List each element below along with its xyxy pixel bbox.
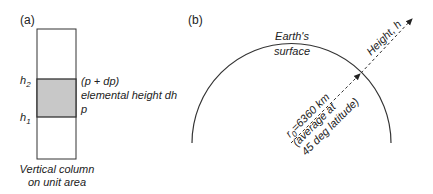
panel-b: (b) Earth's surface Height, h r0=6360 km… <box>188 13 412 157</box>
panel-a: (a) h2 h1 (p + dp) elemental height dh p… <box>20 13 177 188</box>
top-pressure-label: (p + dp) <box>81 75 120 87</box>
panel-a-label: (a) <box>20 13 35 27</box>
bottom-pressure-label: p <box>80 103 87 115</box>
elemental-height-label: elemental height dh <box>81 89 177 101</box>
surface-label-line-1: Earth's <box>275 30 309 42</box>
height-label: Height, h <box>364 18 404 58</box>
caption-line-2: on unit area <box>28 176 86 188</box>
panel-b-label: (b) <box>188 13 203 27</box>
figure: (a) h2 h1 (p + dp) elemental height dh p… <box>0 0 433 194</box>
surface-label-line-2: surface <box>274 45 310 57</box>
caption-line-1: Vertical column <box>20 163 95 175</box>
h1-label: h1 <box>20 111 31 126</box>
h2-label: h2 <box>20 74 31 89</box>
elemental-slab <box>37 79 76 117</box>
